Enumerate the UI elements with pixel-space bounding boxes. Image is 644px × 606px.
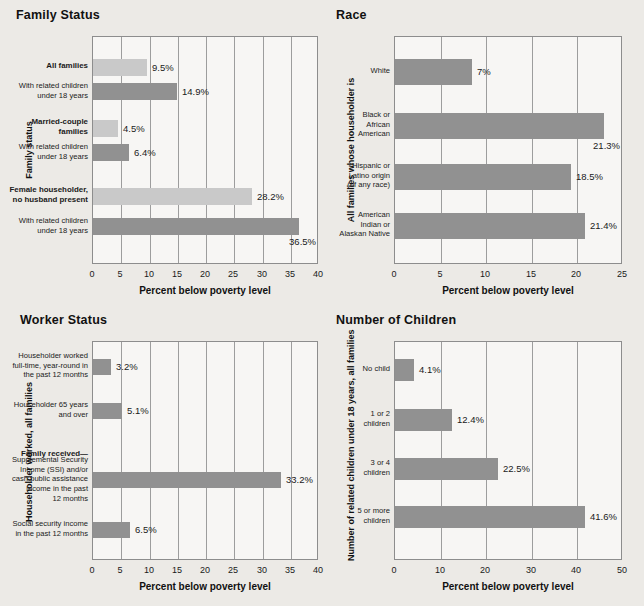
bar-number-of-children-1 xyxy=(395,409,452,431)
bar-value-label: 12.4% xyxy=(457,414,484,425)
bar-value-label: 41.6% xyxy=(590,511,617,522)
category-label-number-of-children-0: No child xyxy=(308,364,390,374)
y-axis-label-number-of-children: Number of related children under 18 year… xyxy=(346,343,356,561)
bar-number-of-children-0 xyxy=(395,359,414,381)
plot-area-number-of-children: 4.1%12.4%22.5%41.6% xyxy=(394,341,622,560)
x-tick-label: 30 xyxy=(516,565,546,575)
bar-value-label: 4.1% xyxy=(419,364,441,375)
category-label-number-of-children-2: 3 or 4 children xyxy=(308,458,390,477)
x-axis-title-number-of-children: Percent below poverty level xyxy=(394,581,622,592)
poverty-charts-page: Family StatusFamily status9.5%14.9%4.5%6… xyxy=(0,0,644,606)
bar-value-label: 22.5% xyxy=(503,463,530,474)
bar-number-of-children-3 xyxy=(395,506,585,528)
x-tick-label: 0 xyxy=(379,565,409,575)
x-tick-label: 10 xyxy=(425,565,455,575)
bar-number-of-children-2 xyxy=(395,458,498,480)
category-label-number-of-children-3: 5 or more children xyxy=(308,506,390,525)
x-tick-label: 20 xyxy=(470,565,500,575)
x-tick-label: 50 xyxy=(607,565,637,575)
chart-title-number-of-children: Number of Children xyxy=(336,313,456,327)
x-tick-label: 40 xyxy=(561,565,591,575)
category-label-number-of-children-1: 1 or 2 children xyxy=(308,409,390,428)
chart-panel-number-of-children: Number of ChildrenNumber of related chil… xyxy=(0,0,644,606)
